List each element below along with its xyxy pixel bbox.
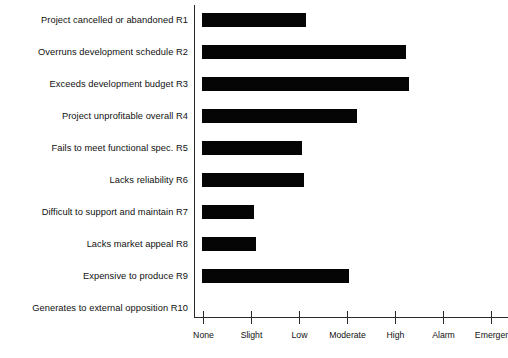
bar <box>202 173 304 187</box>
plot-area: NoneSlightLowModerateHighAlarmEmerger <box>194 0 508 318</box>
category-label: Exceeds development budget R3 <box>0 79 188 89</box>
bar <box>202 45 406 59</box>
category-label: Fails to meet functional spec. R5 <box>0 143 188 153</box>
x-axis-tick-label: High <box>387 330 405 340</box>
category-label: Overruns development schedule R2 <box>0 47 188 57</box>
category-label: Generates to external opposition R10 <box>0 303 188 313</box>
x-axis-tick-label: Low <box>292 330 308 340</box>
category-label: Lacks market appeal R8 <box>0 239 188 249</box>
x-axis-tick <box>299 311 300 324</box>
bar <box>202 141 302 155</box>
x-axis-tick <box>203 311 204 324</box>
x-axis-tick <box>347 311 348 324</box>
x-axis-tick-label: Slight <box>241 330 263 340</box>
category-label: Project cancelled or abandoned R1 <box>0 15 188 25</box>
bar <box>202 237 256 251</box>
y-axis-line <box>194 5 195 318</box>
x-axis-tick <box>251 311 252 324</box>
x-axis-tick-label: Moderate <box>329 330 366 340</box>
bar <box>202 269 349 283</box>
x-axis-tick-label: None <box>193 330 214 340</box>
x-axis-tick <box>491 311 492 324</box>
category-label: Project unprofitable overall R4 <box>0 111 188 121</box>
x-axis-tick-label: Emerger <box>475 330 508 340</box>
x-axis-tick <box>395 311 396 324</box>
horizontal-bar-chart: Project cancelled or abandoned R1Overrun… <box>0 0 508 358</box>
x-axis-line <box>194 317 508 318</box>
category-label: Expensive to produce R9 <box>0 271 188 281</box>
category-label: Lacks reliability R6 <box>0 175 188 185</box>
bar <box>202 13 306 27</box>
category-label: Difficult to support and maintain R7 <box>0 207 188 217</box>
category-label-column: Project cancelled or abandoned R1Overrun… <box>0 0 188 318</box>
bar <box>202 205 254 219</box>
x-axis-tick-label: Alarm <box>432 330 455 340</box>
bar <box>202 77 409 91</box>
x-axis-tick <box>443 311 444 324</box>
bar <box>202 109 357 123</box>
